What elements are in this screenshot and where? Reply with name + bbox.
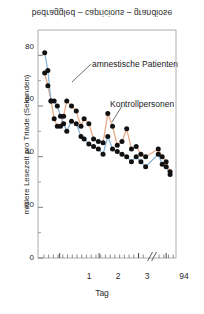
data-point-controls	[91, 144, 96, 149]
data-point-controls	[105, 134, 110, 139]
data-point-controls	[156, 152, 161, 157]
data-point-controls	[55, 104, 60, 109]
data-point-patients	[78, 124, 83, 129]
data-point-patients	[45, 83, 50, 88]
data-point-patients	[52, 116, 57, 121]
data-point-patients	[86, 121, 91, 126]
data-point-controls	[86, 142, 91, 147]
data-point-patients	[105, 111, 110, 116]
data-point-patients	[129, 147, 134, 152]
data-point-patients	[156, 147, 161, 152]
data-point-controls	[42, 50, 47, 55]
data-point-controls	[143, 164, 148, 169]
leader-line-amnestic	[72, 64, 91, 82]
data-point-patients	[91, 136, 96, 141]
y-axis-ticks	[38, 55, 43, 258]
plot-canvas	[0, 0, 204, 314]
leader-line-controls	[112, 106, 122, 122]
data-point-controls	[115, 149, 120, 154]
data-point-controls	[61, 121, 66, 126]
chart-figure: bedraggled – capricious – grandiose mitt…	[0, 0, 204, 314]
data-point-controls	[124, 154, 129, 159]
data-point-controls	[134, 154, 139, 159]
data-point-patients	[96, 139, 101, 144]
data-point-controls	[58, 114, 63, 119]
axis-frame	[38, 30, 176, 258]
data-point-patients	[119, 139, 124, 144]
series-data-points	[42, 50, 172, 177]
data-point-patients	[138, 152, 143, 157]
data-point-patients	[64, 98, 69, 103]
data-point-controls	[101, 152, 106, 157]
data-point-controls	[164, 164, 169, 169]
data-point-controls	[69, 119, 74, 124]
x-axis-break-mark	[148, 252, 157, 261]
data-point-controls	[96, 147, 101, 152]
data-point-patients	[69, 104, 74, 109]
data-point-controls	[129, 159, 134, 164]
data-point-controls	[138, 159, 143, 164]
data-point-patients	[110, 124, 115, 129]
data-point-patients	[134, 144, 139, 149]
data-point-controls	[45, 68, 50, 73]
data-point-controls	[64, 129, 69, 134]
data-point-patients	[115, 143, 120, 148]
data-point-controls	[52, 98, 57, 103]
data-point-controls	[82, 136, 87, 141]
data-point-controls	[119, 152, 124, 157]
data-point-patients	[74, 109, 79, 114]
data-point-controls	[168, 172, 173, 177]
data-point-patients	[101, 140, 106, 145]
annotation-leader-lines	[72, 64, 122, 122]
data-point-patients	[124, 126, 129, 131]
data-point-controls	[74, 121, 79, 126]
data-point-patients	[143, 154, 148, 159]
data-point-controls	[110, 147, 115, 152]
data-point-patients	[82, 116, 87, 121]
